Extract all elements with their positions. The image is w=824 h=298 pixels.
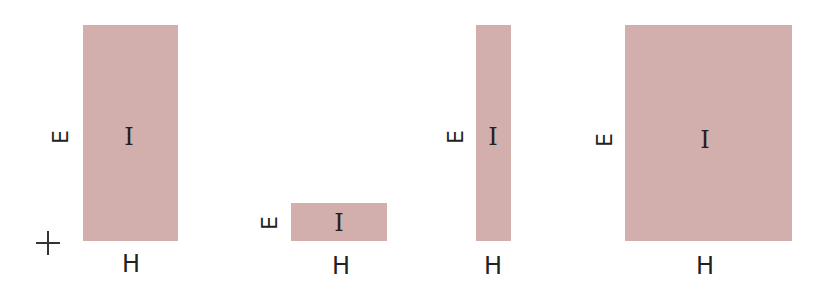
rect1-width-label: H (122, 252, 140, 276)
crosshair-icon (36, 231, 60, 255)
rect2-width-label: H (332, 254, 350, 278)
rect2-height-label: E (259, 216, 281, 230)
rect1-height-label: E (50, 130, 72, 144)
rect4-height-label: E (594, 133, 616, 147)
rect3-height-label: E (445, 130, 467, 144)
rect1-center-label: I (124, 125, 133, 149)
rect4-center-label: I (700, 128, 709, 152)
rect2-center-label: I (334, 211, 343, 235)
rect3-width-label: H (484, 254, 502, 278)
rect4-width-label: H (696, 254, 714, 278)
rect3-center-label: I (488, 125, 497, 149)
